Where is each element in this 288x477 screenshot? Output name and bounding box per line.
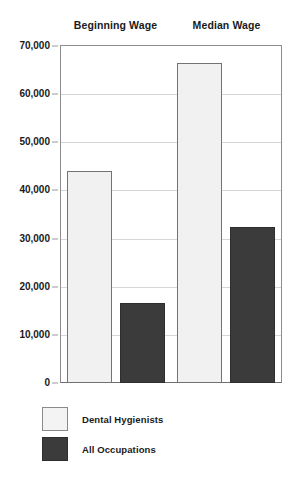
- y-axis: 010,00020,00030,00040,00050,00060,00070,…: [0, 45, 58, 384]
- y-axis-tick-mark: [52, 46, 58, 47]
- y-axis-tick-label: 10,000: [19, 330, 50, 340]
- y-axis-tick-mark: [52, 94, 58, 95]
- y-axis-tick-label: 60,000: [19, 89, 50, 99]
- y-axis-tick-label: 50,000: [19, 137, 50, 147]
- chart-legend: Dental Hygienists All Occupations: [42, 404, 262, 464]
- y-axis-tick-mark: [52, 286, 58, 287]
- y-axis-tick-label: 70,000: [19, 41, 50, 51]
- y-axis-tick-label: 40,000: [19, 185, 50, 195]
- y-axis-tick-label: 20,000: [19, 282, 50, 292]
- bar: [120, 303, 165, 383]
- legend-swatch-icon-dental-hygienists: [42, 407, 68, 431]
- y-axis-tick-label: 0: [44, 378, 50, 388]
- legend-item-all-occupations: All Occupations: [42, 434, 262, 464]
- y-axis-tick-mark: [52, 334, 58, 335]
- legend-label-all-occupations: All Occupations: [82, 444, 156, 455]
- group-header-median-wage: Median Wage: [171, 18, 282, 38]
- y-axis-tick-mark: [52, 190, 58, 191]
- legend-swatch-icon-all-occupations: [42, 437, 68, 461]
- legend-item-dental-hygienists: Dental Hygienists: [42, 404, 262, 434]
- bars-layer: [61, 46, 281, 383]
- y-axis-tick-mark: [52, 238, 58, 239]
- y-axis-tick-mark: [52, 142, 58, 143]
- group-header-beginning-wage: Beginning Wage: [60, 18, 171, 38]
- chart-group-headers: Beginning Wage Median Wage: [60, 18, 282, 38]
- bar: [177, 63, 222, 383]
- y-axis-tick-label: 30,000: [19, 234, 50, 244]
- legend-label-dental-hygienists: Dental Hygienists: [82, 414, 163, 425]
- bar: [230, 227, 275, 383]
- y-axis-tick-mark: [52, 383, 58, 384]
- wage-comparison-chart: Beginning Wage Median Wage 010,00020,000…: [0, 0, 288, 477]
- bar: [67, 171, 112, 383]
